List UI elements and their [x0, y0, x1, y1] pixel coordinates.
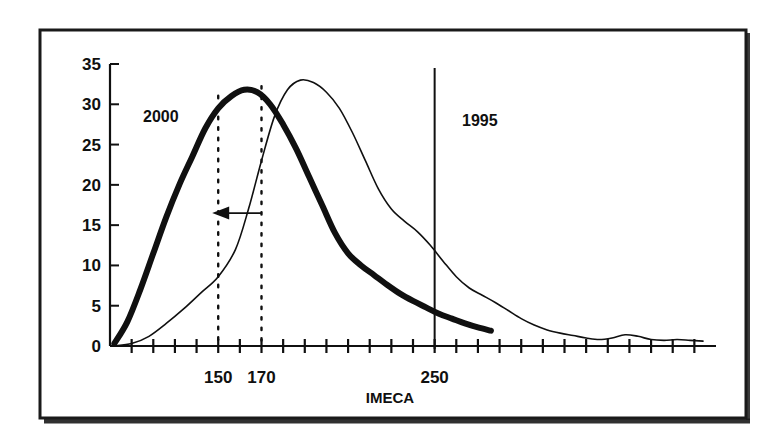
imeca-distribution-chart: 05101520253035 150170250 IMECA 2000 1995	[0, 0, 773, 441]
x-tick-label-250: 250	[420, 368, 448, 387]
x-tick-label-170: 170	[247, 368, 275, 387]
y-tick-label-10: 10	[82, 256, 101, 275]
chart-background	[0, 0, 773, 441]
y-tick-label-5: 5	[92, 297, 101, 316]
x-tick-label-150: 150	[204, 368, 232, 387]
y-tick-label-15: 15	[82, 216, 101, 235]
series-label-1995: 1995	[462, 112, 498, 129]
y-tick-label-25: 25	[82, 136, 101, 155]
y-tick-label-35: 35	[82, 55, 101, 74]
y-tick-label-0: 0	[92, 337, 101, 356]
series-label-2000: 2000	[143, 108, 179, 125]
y-tick-label-20: 20	[82, 176, 101, 195]
x-axis-title: IMECA	[366, 389, 415, 406]
figure-root: 05101520253035 150170250 IMECA 2000 1995	[0, 0, 773, 441]
y-tick-label-30: 30	[82, 95, 101, 114]
